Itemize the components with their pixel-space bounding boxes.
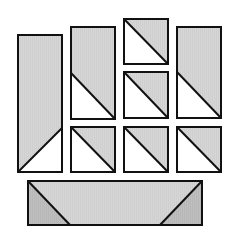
piece-square-bottom-2 [124,127,168,172]
piece-tall-rect-left [18,35,62,172]
piece-square-top [124,19,168,64]
piece-rect-col2 [71,27,115,119]
piece-square-mid [124,72,168,118]
piece-rect-right [177,27,221,118]
pieces-layer [18,19,221,225]
piece-square-bottom-1 [71,127,115,172]
piece-square-bottom-3 [177,127,221,172]
piece-flying-geese-bottom [28,181,202,225]
quilt-diagram [0,0,235,245]
